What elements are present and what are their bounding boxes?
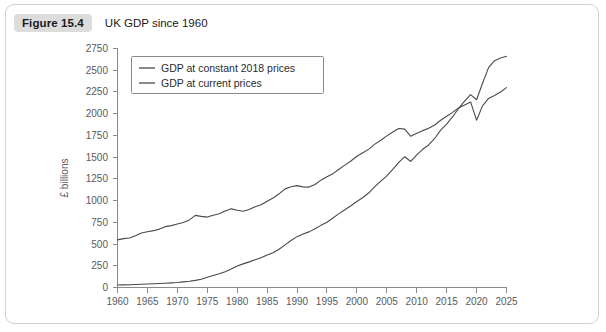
x-tick-label: 2010 (406, 296, 429, 307)
line-chart: 0250500750100012501500175020002250250027… (0, 0, 606, 332)
y-tick-label: 1500 (86, 152, 109, 163)
x-tick-label: 1995 (316, 296, 339, 307)
x-tick-label: 2020 (465, 296, 488, 307)
x-tick-label: 1990 (286, 296, 309, 307)
x-tick-label: 2000 (346, 296, 369, 307)
y-tick-label: 2000 (86, 108, 109, 119)
x-tick-label: 2015 (436, 296, 459, 307)
x-tick-label: 1970 (166, 296, 189, 307)
x-tick-label: 1985 (256, 296, 279, 307)
x-tick-label: 2005 (376, 296, 399, 307)
y-tick-label: 2750 (86, 43, 109, 54)
y-axis-title: £ billions (59, 159, 70, 198)
y-tick-label: 1750 (86, 130, 109, 141)
y-tick-label: 0 (102, 282, 108, 293)
legend-label-current-prices: GDP at current prices (161, 77, 262, 89)
y-tick-label: 500 (91, 239, 108, 250)
y-tick-label: 1250 (86, 173, 109, 184)
y-tick-label: 750 (91, 217, 108, 228)
x-axis: 1960196519701975198019851990199520002005… (106, 288, 518, 308)
x-tick-marks (118, 288, 507, 293)
chart-legend: GDP at constant 2018 prices GDP at curre… (132, 57, 324, 94)
x-tick-labels: 1960196519701975198019851990199520002005… (106, 296, 518, 307)
y-tick-labels: 0250500750100012501500175020002250250027… (86, 43, 109, 293)
series-line-constant-prices (118, 88, 507, 240)
x-tick-label: 1975 (196, 296, 219, 307)
x-tick-label: 2025 (495, 296, 518, 307)
y-tick-marks (113, 49, 118, 288)
y-tick-label: 2250 (86, 86, 109, 97)
y-tick-label: 2500 (86, 65, 109, 76)
legend-label-constant-prices: GDP at constant 2018 prices (161, 62, 295, 74)
y-tick-label: 250 (91, 260, 108, 271)
x-tick-label: 1960 (106, 296, 129, 307)
x-tick-label: 1965 (136, 296, 159, 307)
y-tick-label: 1000 (86, 195, 109, 206)
x-tick-label: 1980 (226, 296, 249, 307)
y-axis: 0250500750100012501500175020002250250027… (59, 43, 118, 293)
